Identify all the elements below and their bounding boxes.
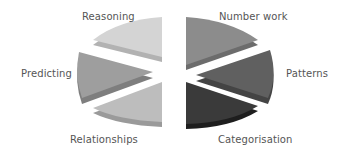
label-predicting: Predicting: [21, 68, 72, 79]
label-number-work: Number work: [219, 11, 288, 22]
label-reasoning: Reasoning: [82, 11, 135, 22]
label-categorisation: Categorisation: [218, 134, 292, 145]
label-patterns: Patterns: [286, 68, 328, 79]
label-relationships: Relationships: [70, 134, 138, 145]
segment-reasoning: [93, 17, 162, 62]
pie-diagram: Reasoning Predicting Relationships Numbe…: [0, 0, 340, 152]
